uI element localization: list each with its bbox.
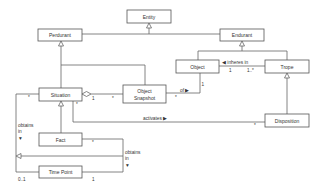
class-fact-label: Fact — [56, 137, 66, 143]
mult-fact-obtains: * — [92, 140, 94, 145]
mult-timepoint-left: 0..1 — [18, 177, 26, 182]
class-time-point[interactable]: Time Point — [39, 166, 82, 178]
class-object[interactable]: Object — [176, 60, 219, 73]
obtains-in-right-label-1: obtains — [125, 150, 141, 155]
class-situation[interactable]: Situation — [39, 88, 82, 101]
of-label: of ▶ — [180, 88, 189, 93]
class-fact[interactable]: Fact — [39, 133, 82, 146]
activates-label: activates ▶ — [143, 116, 167, 121]
obtains-in-left-label-1: obtains — [18, 123, 34, 128]
class-time-point-label: Time Point — [49, 169, 73, 175]
mult-object-of: 1 — [202, 82, 205, 87]
mult-snapshot-of: * — [175, 95, 177, 100]
mult-inheres-object: 1 — [229, 68, 232, 73]
obtains-in-left-arrow-icon: ▼ — [18, 136, 23, 141]
mult-disposition-activates: * — [254, 123, 256, 128]
class-situation-label: Situation — [51, 92, 71, 98]
trope-generalization-arrow-icon — [285, 73, 290, 78]
mult-situation-activates: * — [76, 102, 78, 107]
mult-situation-agg-whole: 1 — [92, 96, 95, 101]
mult-situation-agg-part: * — [112, 96, 114, 101]
class-entity-label: Entity — [143, 14, 156, 20]
class-disposition-label: Disposition — [275, 118, 300, 124]
mult-timepoint-right: 1 — [92, 177, 95, 182]
class-endurant[interactable]: Endurant — [220, 29, 264, 41]
class-object-snapshot-label-1: Object — [137, 88, 152, 94]
class-object-label: Object — [190, 64, 205, 70]
entity-generalization-arrow-icon — [147, 23, 152, 28]
perdurant-generalization-arrow-icon — [59, 41, 64, 46]
mult-situation-left: * — [28, 95, 30, 100]
class-trope[interactable]: Trope — [265, 60, 309, 73]
obtains-in-left-label-2: in — [18, 129, 22, 134]
obtains-in-right-label-2: in — [125, 156, 129, 161]
class-entity[interactable]: Entity — [127, 10, 171, 23]
aggregation-diamond-icon — [82, 92, 91, 97]
obtains-generalization-arrow-icon — [16, 154, 21, 159]
uml-diagram-canvas: Entity Perdurant Endurant Object Trope S… — [0, 0, 324, 188]
class-endurant-label: Endurant — [232, 32, 253, 38]
class-trope-label: Trope — [281, 64, 294, 70]
mult-inheres-trope: 1..* — [247, 68, 254, 73]
class-disposition[interactable]: Disposition — [265, 114, 309, 127]
obtains-in-right-arrow-icon: ▼ — [125, 163, 130, 168]
class-perdurant-label: Perdurant — [49, 32, 72, 38]
endurant-generalization-arrow-icon — [240, 41, 245, 46]
class-perdurant[interactable]: Perdurant — [38, 29, 82, 41]
class-object-snapshot-label-2: Snapshot — [134, 95, 156, 101]
inheres-in-label: ◀ inheres in — [222, 60, 248, 65]
class-object-snapshot[interactable]: Object Snapshot — [123, 85, 166, 103]
situation-generalization-arrow-icon — [59, 101, 64, 106]
